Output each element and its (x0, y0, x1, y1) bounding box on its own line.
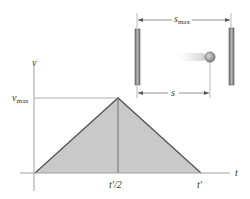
smax-arrow-right-icon (225, 18, 230, 22)
ball-motion-trail (172, 53, 205, 61)
t-axis-label: t (235, 167, 238, 178)
velocity-time-diagram: v vmax t t'/2 t' smax s (0, 0, 250, 199)
smax-label-sub: max (178, 18, 191, 26)
s-arrow-right-icon (204, 91, 209, 95)
smax-arrow-left-icon (138, 18, 143, 22)
smax-label: smax (174, 13, 190, 26)
right-plate (229, 28, 234, 85)
ball-icon (205, 52, 215, 62)
end-tick-label: t' (197, 179, 203, 190)
vmax-label: vmax (12, 92, 29, 105)
s-label: s (171, 87, 175, 98)
diagram-svg: v vmax t t'/2 t' smax s (0, 0, 250, 199)
mid-tick-label: t'/2 (109, 179, 122, 190)
left-plate (135, 29, 140, 85)
s-arrow-left-icon (138, 91, 143, 95)
v-axis-label: v (32, 57, 37, 68)
vmax-label-sub: max (16, 97, 29, 105)
